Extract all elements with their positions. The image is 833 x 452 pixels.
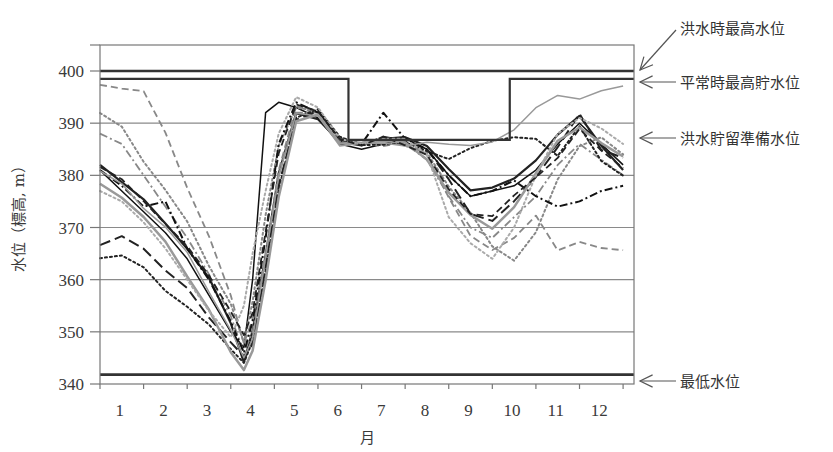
y-tick-label: 350: [59, 323, 85, 342]
series-line: [100, 113, 623, 362]
x-tick-label: 10: [504, 401, 521, 420]
arrow-flood-max-icon: [640, 30, 676, 70]
y-axis-title: 水位（標高, m）: [10, 158, 28, 272]
series-line: [100, 86, 623, 358]
y-tick-label: 380: [59, 166, 85, 185]
x-tick-label: 7: [377, 401, 386, 420]
annotations: 洪水時最高水位 平常時最高貯水位 洪水貯留準備水位 最低水位: [680, 20, 800, 391]
x-tick-label: 6: [334, 401, 343, 420]
arrow-min-level-icon: [640, 375, 676, 387]
normal-max-step-line: [100, 79, 634, 140]
y-axis-ticks: 340350360370380390400: [59, 45, 101, 394]
y-tick-label: 360: [59, 271, 85, 290]
x-tick-label: 5: [290, 401, 299, 420]
annotation-arrows: [640, 30, 676, 387]
x-tick-label: 1: [116, 401, 125, 420]
x-tick-label: 4: [246, 401, 255, 420]
annotation-flood-prep-level: 洪水貯留準備水位: [680, 130, 800, 148]
arrow-flood-prep-icon: [640, 132, 676, 144]
y-tick-label: 370: [59, 219, 85, 238]
plot-frame: [100, 45, 634, 384]
x-tick-label: 12: [591, 401, 608, 420]
x-tick-label: 11: [548, 401, 564, 420]
y-tick-label: 340: [59, 375, 85, 394]
series-line: [100, 109, 623, 363]
y-tick-label: 390: [59, 114, 85, 133]
reference-lines: [100, 71, 634, 375]
water-level-chart: 340350360370380390400 123456789101112 水位…: [0, 0, 833, 452]
x-axis-title: 月: [360, 429, 375, 447]
arrow-normal-max-icon: [640, 76, 676, 88]
x-tick-label: 9: [464, 401, 473, 420]
series-line: [100, 111, 623, 356]
x-tick-label: 3: [203, 401, 212, 420]
x-tick-label: 8: [421, 401, 430, 420]
annotation-min-level: 最低水位: [680, 373, 740, 391]
x-axis-ticks: 123456789101112: [100, 384, 623, 420]
y-tick-label: 400: [59, 62, 85, 81]
annotation-normal-max-level: 平常時最高貯水位: [680, 74, 800, 92]
x-tick-label: 2: [159, 401, 168, 420]
annotation-flood-max-level: 洪水時最高水位: [680, 20, 785, 38]
